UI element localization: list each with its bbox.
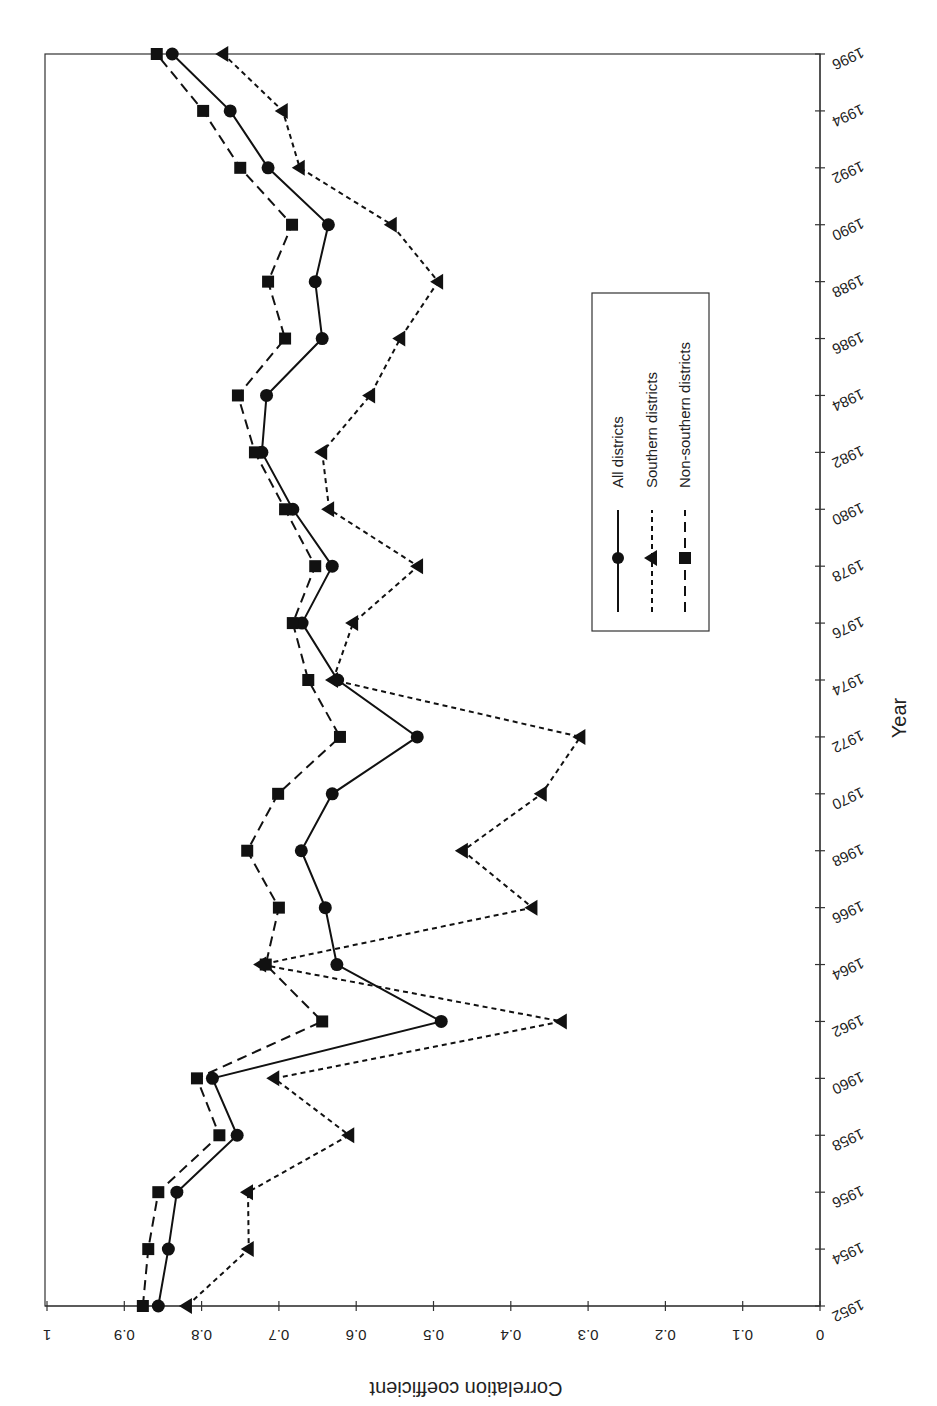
y-tick-label: 1 <box>43 1327 51 1344</box>
circle-marker-icon <box>206 1072 219 1085</box>
square-marker-icon <box>287 617 299 629</box>
x-tick-label: 1964 <box>830 955 867 985</box>
plot-frame <box>45 54 820 1306</box>
square-marker-icon <box>142 1243 154 1255</box>
triangle-marker-icon <box>430 274 443 290</box>
square-marker-icon <box>316 1015 328 1027</box>
circle-marker-icon <box>411 730 424 743</box>
square-marker-icon <box>279 333 291 345</box>
circle-marker-icon <box>326 560 339 573</box>
circle-marker-icon <box>260 389 273 402</box>
triangle-marker-icon <box>266 1070 279 1086</box>
x-tick-label: 1958 <box>830 1126 867 1156</box>
triangle-marker-icon <box>554 1013 567 1029</box>
x-tick-label: 1952 <box>830 1296 867 1326</box>
x-tick-label: 1984 <box>830 386 867 416</box>
square-marker-icon <box>232 389 244 401</box>
x-tick-label: 1994 <box>830 101 867 131</box>
triangle-marker-icon <box>362 387 375 403</box>
square-marker-icon <box>272 788 284 800</box>
x-tick-label: 1982 <box>830 443 867 473</box>
x-tick-label: 1962 <box>830 1012 867 1042</box>
x-tick-label: 1970 <box>830 784 867 814</box>
legend-label-all-districts: All districts <box>609 416 626 488</box>
square-marker-icon <box>137 1300 149 1312</box>
circle-marker-icon <box>152 1300 165 1313</box>
square-marker-icon <box>262 276 274 288</box>
x-tick-label: 1978 <box>830 556 867 586</box>
series-layer <box>137 46 586 1314</box>
circle-marker-icon <box>322 218 335 231</box>
y-tick-label: 0.2 <box>655 1327 676 1344</box>
triangle-marker-icon <box>325 672 338 688</box>
square-marker-icon <box>273 902 285 914</box>
square-marker-icon <box>302 674 314 686</box>
circle-marker-icon <box>309 275 322 288</box>
square-marker-icon <box>249 446 261 458</box>
triangle-marker-icon <box>392 331 405 347</box>
year-axis: 1952195419561958196019621964196619681970… <box>815 44 867 1326</box>
circle-marker-icon <box>316 332 329 345</box>
circle-marker-icon <box>166 48 179 61</box>
y-tick-label: 0.9 <box>114 1327 135 1344</box>
square-marker-icon <box>152 1186 164 1198</box>
line-chart: 00.10.20.30.40.50.60.70.80.91 1952195419… <box>0 0 937 1406</box>
y-tick-label: 0 <box>816 1327 824 1344</box>
triangle-marker-icon <box>384 217 397 233</box>
x-tick-label: 1976 <box>830 613 867 643</box>
circle-marker-icon <box>170 1186 183 1199</box>
x-tick-label: 1966 <box>830 898 867 928</box>
square-marker-icon <box>334 731 346 743</box>
square-marker-icon <box>260 959 272 971</box>
circle-marker-icon <box>435 1015 448 1028</box>
square-marker-icon <box>679 552 691 564</box>
y-axis-title: Correlation coefficient <box>369 1378 563 1400</box>
x-tick-label: 1986 <box>830 329 867 359</box>
y-tick-label: 0.3 <box>578 1327 599 1344</box>
triangle-marker-icon <box>314 444 327 460</box>
y-tick-label: 0.5 <box>423 1327 444 1344</box>
y-tick-label: 0.7 <box>268 1327 289 1344</box>
x-tick-label: 1968 <box>830 841 867 871</box>
y-tick-label: 0.6 <box>346 1327 367 1344</box>
square-marker-icon <box>279 503 291 515</box>
x-tick-label: 1954 <box>830 1239 867 1269</box>
square-marker-icon <box>191 1072 203 1084</box>
y-tick-label: 0.4 <box>500 1327 521 1344</box>
x-tick-label: 1960 <box>830 1069 867 1099</box>
circle-marker-icon <box>295 844 308 857</box>
circle-marker-icon <box>224 104 237 117</box>
x-tick-label: 1996 <box>830 44 867 74</box>
circle-marker-icon <box>262 161 275 174</box>
triangle-marker-icon <box>321 501 334 517</box>
series-all-districts <box>152 48 448 1313</box>
x-tick-label: 1956 <box>830 1182 867 1212</box>
square-marker-icon <box>151 48 163 60</box>
legend: All districts Southern districts Non-sou… <box>592 293 709 631</box>
triangle-marker-icon <box>240 1184 253 1200</box>
triangle-marker-icon <box>215 46 228 62</box>
circle-marker-icon <box>162 1243 175 1256</box>
triangle-marker-icon <box>179 1298 192 1314</box>
x-tick-label: 1980 <box>830 500 867 530</box>
square-marker-icon <box>241 845 253 857</box>
x-tick-label: 1974 <box>830 670 867 700</box>
square-marker-icon <box>213 1129 225 1141</box>
y-tick-label: 0.8 <box>191 1327 212 1344</box>
square-marker-icon <box>286 219 298 231</box>
circle-marker-icon <box>319 901 332 914</box>
square-marker-icon <box>309 560 321 572</box>
x-tick-label: 1990 <box>830 215 867 245</box>
x-tick-label: 1972 <box>830 727 867 757</box>
series-non-southern-districts <box>137 48 346 1312</box>
circle-marker-icon <box>231 1129 244 1142</box>
square-marker-icon <box>234 162 246 174</box>
legend-label-non-southern-districts: Non-southern districts <box>676 342 693 488</box>
x-axis-title: Year <box>888 697 910 738</box>
circle-marker-icon <box>330 958 343 971</box>
circle-marker-icon <box>612 552 624 564</box>
triangle-marker-icon <box>455 843 468 859</box>
square-marker-icon <box>197 105 209 117</box>
triangle-marker-icon <box>572 729 585 745</box>
x-tick-label: 1992 <box>830 158 867 188</box>
